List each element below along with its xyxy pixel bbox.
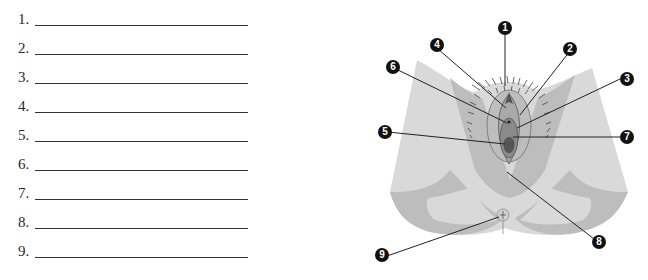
figure-illustration	[370, 20, 648, 280]
anatomical-figure: 1 2 3 4 5 6 7 8 9	[370, 20, 648, 280]
callout-8: 8	[592, 235, 606, 249]
answer-blank-7[interactable]: 7.	[18, 184, 248, 204]
answer-blank-2[interactable]: 2.	[18, 39, 248, 59]
answer-blank-list: 1. 2. 3. 4. 5. 6. 7. 8. 9.	[0, 0, 260, 280]
blank-number: 3.	[18, 69, 29, 86]
blank-number: 2.	[18, 40, 29, 57]
callout-9: 9	[375, 248, 389, 262]
answer-line[interactable]	[35, 141, 248, 142]
answer-blank-6[interactable]: 6.	[18, 155, 248, 175]
answer-line[interactable]	[35, 54, 248, 55]
callout-1: 1	[498, 21, 512, 35]
answer-line[interactable]	[35, 170, 248, 171]
urethral-opening	[507, 120, 510, 123]
answer-line[interactable]	[35, 83, 248, 84]
answer-blank-3[interactable]: 3.	[18, 68, 248, 88]
callout-2: 2	[563, 42, 577, 56]
blank-number: 4.	[18, 98, 29, 115]
blank-number: 1.	[18, 11, 29, 28]
answer-line[interactable]	[35, 228, 248, 229]
answer-blank-1[interactable]: 1.	[18, 10, 248, 30]
blank-number: 5.	[18, 127, 29, 144]
callout-4: 4	[430, 38, 444, 52]
answer-line[interactable]	[35, 199, 248, 200]
blank-number: 7.	[18, 185, 29, 202]
answer-blank-9[interactable]: 9.	[18, 242, 248, 262]
answer-line[interactable]	[35, 112, 248, 113]
callout-7: 7	[620, 130, 634, 144]
answer-blank-5[interactable]: 5.	[18, 126, 248, 146]
answer-line[interactable]	[35, 25, 248, 26]
answer-blank-4[interactable]: 4.	[18, 97, 248, 117]
vaginal-opening	[504, 137, 515, 153]
blank-number: 6.	[18, 156, 29, 173]
callout-6: 6	[386, 60, 400, 74]
blank-number: 9.	[18, 243, 29, 260]
callout-5: 5	[378, 125, 392, 139]
answer-blank-8[interactable]: 8.	[18, 213, 248, 233]
callout-3: 3	[620, 72, 634, 86]
blank-number: 8.	[18, 214, 29, 231]
answer-line[interactable]	[35, 257, 248, 258]
